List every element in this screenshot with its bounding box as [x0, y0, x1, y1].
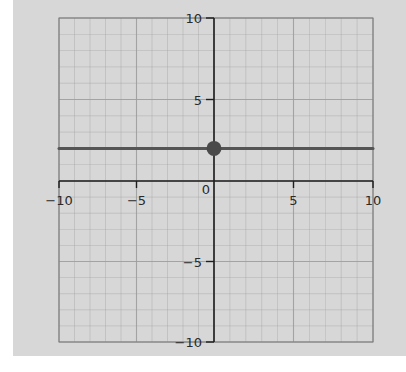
y-tick-label: −5	[183, 255, 202, 270]
x-tick-label: 10	[365, 193, 382, 208]
y-tick-label: 5	[194, 93, 202, 108]
coordinate-plane: −10−50510−10−5510	[0, 0, 406, 372]
x-tick-label: 0	[202, 182, 210, 197]
y-tick-label: 10	[185, 11, 202, 26]
x-tick-label: −5	[127, 193, 146, 208]
grid-lines	[59, 18, 373, 342]
x-tick-label: −10	[45, 193, 72, 208]
y-tick-label: −10	[175, 335, 202, 350]
data-points	[207, 141, 222, 156]
point-marker[interactable]	[207, 141, 222, 156]
x-tick-label: 5	[289, 193, 297, 208]
